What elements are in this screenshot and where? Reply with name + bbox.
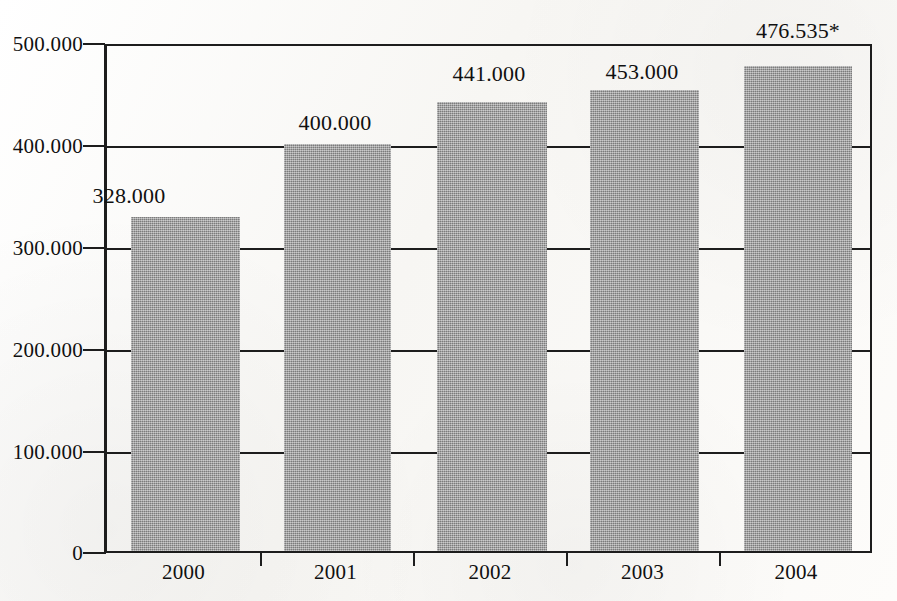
bar-label-2004: 476.535* [738, 18, 858, 44]
y-tick-label-300000: 300.000 [13, 236, 83, 261]
x-tick-mark-4 [719, 553, 721, 566]
x-tick-label-2001: 2001 [282, 560, 389, 585]
y-tick-mark-100000 [83, 451, 105, 453]
y-axis-label-group: 500.000 400.000 300.000 200.000 100.000 … [0, 0, 83, 601]
y-tick-mark-400000 [83, 145, 105, 147]
y-tick-label-100000: 100.000 [13, 440, 83, 465]
bar-chart-figure: 500.000 400.000 300.000 200.000 100.000 … [0, 0, 897, 601]
y-tick-label-200000: 200.000 [13, 338, 83, 363]
x-tick-label-2002: 2002 [435, 560, 545, 585]
bar-2001[interactable] [284, 144, 391, 551]
y-tick-label-500000: 500.000 [13, 32, 83, 57]
bar-label-2001: 400.000 [280, 110, 390, 136]
plot-area [105, 44, 872, 553]
x-tick-label-2000: 2000 [129, 560, 238, 585]
y-tick-mark-500000 [83, 43, 105, 45]
bar-label-2002: 441.000 [434, 61, 544, 87]
bar-label-2000: 328.000 [74, 183, 184, 209]
x-tick-mark-3 [566, 553, 568, 566]
bar-label-2003: 453.000 [587, 59, 697, 85]
y-tick-mark-0 [83, 552, 105, 554]
x-tick-label-2003: 2003 [588, 560, 697, 585]
x-tick-label-2004: 2004 [742, 560, 850, 585]
y-tick-label-400000: 400.000 [13, 134, 83, 159]
bar-2004[interactable] [744, 66, 852, 551]
y-tick-mark-300000 [83, 247, 105, 249]
y-tick-label-0: 0 [72, 541, 83, 566]
bar-2003[interactable] [590, 90, 699, 551]
y-tick-mark-200000 [83, 349, 105, 351]
bar-2000[interactable] [131, 217, 240, 551]
x-tick-mark-2 [413, 553, 415, 566]
x-tick-mark-1 [260, 553, 262, 566]
bar-2002[interactable] [437, 102, 547, 551]
